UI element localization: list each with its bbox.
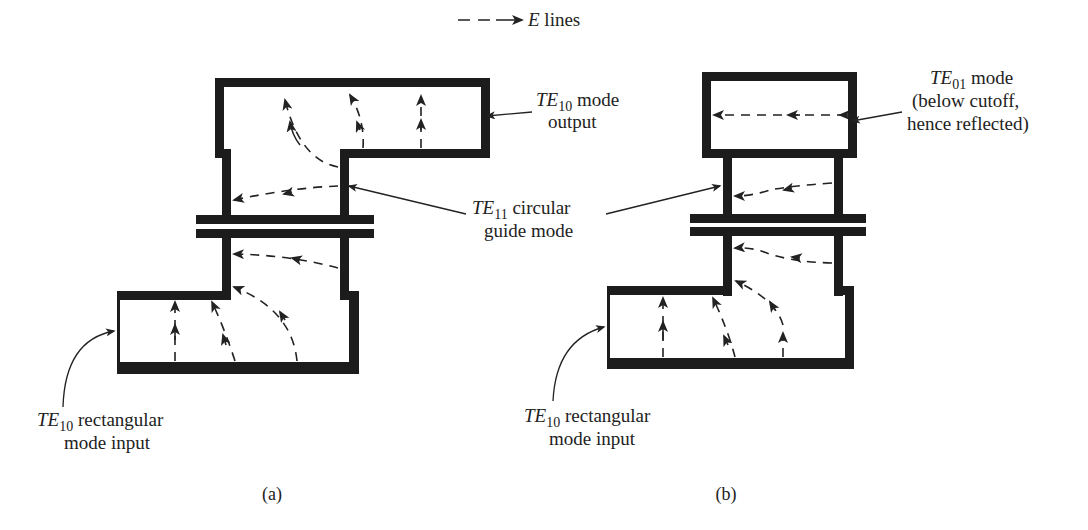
e-field-lines-a: [175, 95, 421, 361]
input-label-a-line2: mode input: [64, 432, 151, 453]
label-output-b: TE01 mode (below cutoff, hence reflected…: [852, 67, 1029, 135]
output-label-a-line2: output: [548, 111, 597, 132]
input-label-b-line2: mode input: [549, 428, 636, 449]
input-label-a-line1: TE10 rectangular: [37, 409, 164, 434]
circular-guide-a: [196, 150, 374, 298]
input-waveguide-a: [117, 291, 359, 374]
legend-label: E lines: [527, 9, 580, 30]
circular-guide-b: [690, 150, 866, 296]
output-label-b-line3: hence reflected): [907, 113, 1029, 135]
label-input-a: TE10 rectangular mode input: [37, 331, 164, 453]
waveguide-diagram: E lines: [0, 0, 1088, 530]
caption-a: (a): [262, 484, 282, 505]
output-label-b-line1: TE01 mode: [930, 67, 1013, 92]
input-waveguide-b: [607, 286, 854, 369]
input-label-b-line1: TE10 rectangular: [524, 405, 651, 430]
label-input-b: TE10 rectangular mode input: [524, 327, 651, 449]
legend-var: E: [527, 9, 540, 30]
caption-b: (b): [716, 484, 737, 505]
legend: E lines: [458, 9, 580, 30]
circular-label-line2: guide mode: [484, 220, 573, 241]
output-label-b-line2: (below cutoff,: [912, 90, 1019, 112]
label-output-a: TE10 mode output: [487, 89, 619, 132]
figure-b: TE01 mode (below cutoff, hence reflected…: [524, 67, 1029, 505]
legend-text: lines: [540, 9, 581, 30]
output-waveguide-a: [215, 78, 490, 158]
label-circular: TE11 circular guide mode: [349, 186, 720, 241]
circular-label-line1: TE11 circular: [472, 197, 571, 222]
